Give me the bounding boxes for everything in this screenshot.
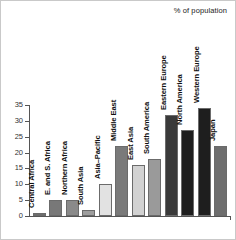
y-axis-tick-label: 5 — [19, 195, 23, 204]
y-axis-tick: 20 — [25, 153, 29, 154]
bar-category-label: Asia–Pacific — [93, 136, 102, 180]
plot-area: 05101520253035 Central AfricaE. and S. A… — [29, 105, 231, 217]
bar — [132, 165, 145, 216]
x-axis-line — [29, 216, 231, 217]
chart-header-note: % of population — [174, 6, 227, 15]
x-axis-end-tick — [230, 216, 231, 220]
bar-category-label: East Asia — [126, 127, 135, 160]
bar-category-label: South Asia — [76, 166, 85, 204]
bar — [165, 115, 178, 216]
y-axis-tick-label: 10 — [15, 179, 23, 188]
bar — [148, 159, 161, 216]
bar-category-label: Middle East — [109, 100, 118, 141]
bar-category-label: Central Africa — [27, 160, 36, 208]
bar — [181, 130, 194, 216]
bar — [33, 213, 46, 216]
y-axis-tick: 25 — [25, 137, 29, 138]
y-axis-tick: 0 — [25, 216, 29, 217]
bar-category-label: E. and S. Africa — [43, 141, 52, 195]
bar — [99, 184, 112, 216]
bar — [82, 210, 95, 216]
bar — [214, 146, 227, 216]
bar-category-label: South America — [142, 102, 151, 154]
bar-category-label: Japan — [208, 120, 217, 141]
y-axis-tick-label: 35 — [15, 100, 23, 109]
y-axis-tick-label: 20 — [15, 148, 23, 157]
y-axis-tick-label: 30 — [15, 116, 23, 125]
bar-category-label: North America — [175, 75, 184, 126]
bar — [49, 200, 62, 216]
y-axis-tick-label: 25 — [15, 132, 23, 141]
y-axis-tick-label: 15 — [15, 163, 23, 172]
y-axis-tick-label: 0 — [19, 211, 23, 220]
chart-figure: % of population 05101520253035 Central A… — [0, 0, 236, 240]
y-axis-tick: 30 — [25, 121, 29, 122]
bar-category-label: Eastern Europe — [159, 55, 168, 110]
bar-category-label: Western Europe — [192, 46, 201, 103]
y-axis-tick: 35 — [25, 105, 29, 106]
bar-category-label: Northern Africa — [60, 141, 69, 195]
